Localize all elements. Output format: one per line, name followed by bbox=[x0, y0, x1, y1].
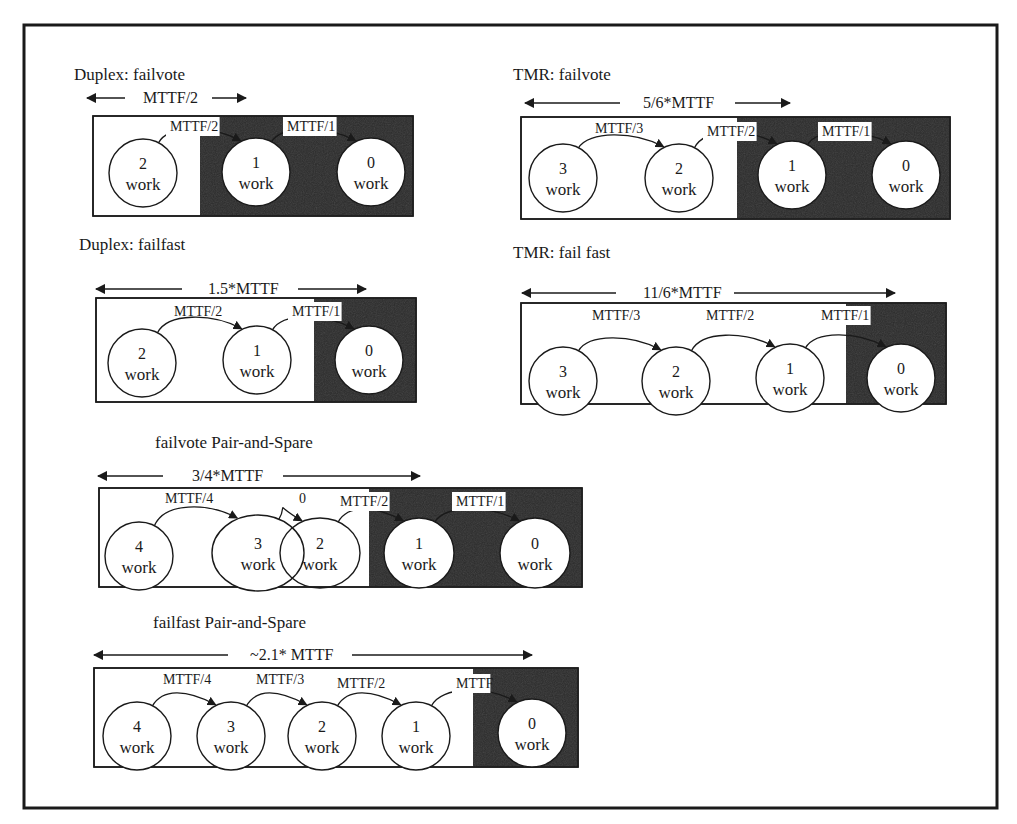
diagram-failvote-pair-and-spare: failvote Pair-and-Spare3/4*MTTFMTTF/40MT… bbox=[98, 433, 582, 591]
diagram-title: TMR: failvote bbox=[513, 65, 611, 84]
working-count: 1 bbox=[252, 154, 260, 171]
diagram-title: failfast Pair-and-Spare bbox=[153, 613, 306, 632]
transition-rate-label: MTTF/3 bbox=[256, 672, 304, 687]
state-word: work bbox=[546, 383, 581, 402]
state-word: work bbox=[354, 174, 389, 193]
state-circle bbox=[109, 139, 177, 207]
state-node: 0work bbox=[500, 518, 570, 588]
state-word: work bbox=[122, 558, 157, 577]
working-count: 1 bbox=[786, 360, 794, 377]
figure: Duplex: failvoteMTTF/2MTTF/2MTTF/12work1… bbox=[0, 0, 1017, 824]
state-circle bbox=[756, 344, 824, 412]
state-word: work bbox=[241, 555, 276, 574]
diagram-duplex-failfast: Duplex: failfast1.5*MTTFMTTF/2MTTF/12wor… bbox=[79, 235, 416, 402]
transition-rate-label: MTTF/2 bbox=[337, 676, 385, 691]
state-circle bbox=[642, 347, 710, 415]
mission-time-label: MTTF/2 bbox=[143, 89, 198, 106]
state-node: 0work bbox=[335, 326, 403, 394]
state-word: work bbox=[399, 738, 434, 757]
diagram-failfast-pair-and-spare: failfast Pair-and-Spare~2.1* MTTFMTTF/4M… bbox=[94, 613, 578, 770]
working-count: 2 bbox=[318, 718, 326, 735]
working-count: 0 bbox=[365, 342, 373, 359]
state-node: 2work bbox=[645, 144, 713, 212]
transition-rate-label: MTTF/2 bbox=[340, 494, 388, 509]
working-count: 2 bbox=[138, 345, 146, 362]
state-circle bbox=[335, 326, 403, 394]
state-word: work bbox=[518, 555, 553, 574]
state-word: work bbox=[884, 380, 919, 399]
mission-time-label: 5/6*MTTF bbox=[643, 94, 714, 111]
working-count: 1 bbox=[412, 718, 420, 735]
state-circle bbox=[384, 518, 454, 588]
state-node: 0work bbox=[867, 344, 935, 412]
state-word: work bbox=[773, 380, 808, 399]
working-count: 3 bbox=[227, 718, 235, 735]
state-circle bbox=[872, 141, 940, 209]
state-circle bbox=[288, 702, 356, 770]
availability-state-diagrams: Duplex: failvoteMTTF/2MTTF/2MTTF/12work1… bbox=[0, 0, 1017, 824]
state-node: 4work bbox=[103, 702, 171, 770]
transition-rate-label: MTTF/1 bbox=[822, 124, 870, 139]
state-node: 2work bbox=[642, 347, 710, 415]
state-circle bbox=[382, 702, 450, 770]
transition-rate-label: MTTF/1 bbox=[821, 308, 869, 323]
diagram-title: Duplex: failvote bbox=[74, 65, 185, 84]
transition-rate-label: MTTF/4 bbox=[165, 491, 213, 506]
working-count: 2 bbox=[675, 160, 683, 177]
working-count: 1 bbox=[788, 157, 796, 174]
state-circle bbox=[197, 702, 265, 770]
state-node: 1work bbox=[758, 141, 826, 209]
state-word: work bbox=[659, 383, 694, 402]
state-word: work bbox=[240, 362, 275, 381]
state-word: work bbox=[214, 738, 249, 757]
state-circle bbox=[280, 518, 360, 588]
working-count: 2 bbox=[139, 155, 147, 172]
working-count: 3 bbox=[559, 363, 567, 380]
transition-rate-label: MTTF bbox=[456, 676, 494, 691]
state-node: 3work bbox=[197, 702, 265, 770]
state-circle bbox=[529, 144, 597, 212]
transition-rate-label: MTTF/1 bbox=[456, 494, 504, 509]
state-circle bbox=[758, 141, 826, 209]
state-node: 1work bbox=[382, 702, 450, 770]
state-node: 1work bbox=[384, 518, 454, 588]
diagram-duplex-failvote: Duplex: failvoteMTTF/2MTTF/2MTTF/12work1… bbox=[74, 65, 413, 216]
state-node: 2work bbox=[288, 702, 356, 770]
state-word: work bbox=[305, 738, 340, 757]
working-count: 4 bbox=[135, 538, 143, 555]
diagram-title: failvote Pair-and-Spare bbox=[155, 433, 313, 452]
state-node: 2work bbox=[109, 139, 177, 207]
working-count: 0 bbox=[528, 715, 536, 732]
state-circle bbox=[108, 329, 176, 397]
transition-rate-label: MTTF/2 bbox=[174, 304, 222, 319]
transition-rate-label: MTTF/1 bbox=[287, 119, 335, 134]
state-word: work bbox=[402, 555, 437, 574]
diagram-tmr-failfast: TMR: fail fast11/6*MTTFMTTF/3MTTF/2MTTF/… bbox=[513, 243, 946, 415]
state-node: 3work bbox=[529, 144, 597, 212]
working-count: 1 bbox=[415, 535, 423, 552]
transition-rate-label: MTTF/4 bbox=[163, 672, 211, 687]
state-circle bbox=[867, 344, 935, 412]
state-word: work bbox=[120, 738, 155, 757]
diagram-tmr-failvote: TMR: failvote5/6*MTTFMTTF/3MTTF/2MTTF/13… bbox=[513, 65, 950, 219]
state-word: work bbox=[303, 555, 338, 574]
state-node: 2work bbox=[280, 518, 360, 588]
working-count: 3 bbox=[254, 535, 262, 552]
transition-rate-label: MTTF/3 bbox=[592, 308, 640, 323]
transition-rate-label: MTTF/1 bbox=[292, 304, 340, 319]
mission-time-label: 1.5*MTTF bbox=[208, 280, 279, 297]
state-node: 0work bbox=[872, 141, 940, 209]
state-node: 1work bbox=[223, 326, 291, 394]
state-word: work bbox=[662, 180, 697, 199]
state-node: 0work bbox=[337, 138, 405, 206]
state-circle bbox=[103, 702, 171, 770]
diagram-title: TMR: fail fast bbox=[513, 243, 611, 262]
transition-rate-label: MTTF/2 bbox=[707, 124, 755, 139]
state-node: 3work bbox=[529, 347, 597, 415]
transition-rate-label: MTTF/2 bbox=[170, 119, 218, 134]
mission-time-label: ~2.1* MTTF bbox=[250, 646, 333, 663]
state-word: work bbox=[889, 177, 924, 196]
state-node: 4work bbox=[105, 522, 173, 590]
state-word: work bbox=[125, 365, 160, 384]
state-circle bbox=[529, 347, 597, 415]
